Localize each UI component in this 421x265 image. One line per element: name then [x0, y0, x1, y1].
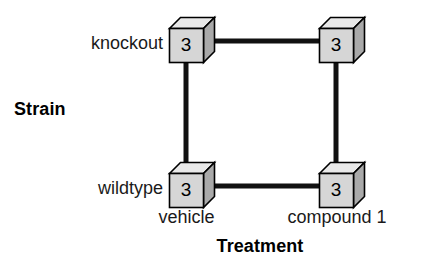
cell-wildtype-vehicle[interactable]: 3 — [169, 162, 215, 208]
cell-wildtype-compound1[interactable]: 3 — [319, 162, 365, 208]
x-axis-title: Treatment — [180, 237, 340, 255]
y-axis-title: Strain — [14, 100, 66, 118]
column-label-compound1: compound 1 — [272, 208, 402, 226]
row-label-wildtype: wildtype — [0, 179, 163, 197]
column-label-vehicle: vehicle — [134, 208, 239, 226]
factorial-design-figure: 3 3 3 3 knockout wildtype vehicle compou… — [0, 0, 421, 265]
sample-size-value: 3 — [319, 173, 353, 207]
row-label-knockout: knockout — [0, 34, 163, 52]
cell-knockout-vehicle[interactable]: 3 — [169, 17, 215, 63]
sample-size-value: 3 — [169, 173, 203, 207]
sample-size-value: 3 — [169, 28, 203, 62]
sample-size-value: 3 — [319, 28, 353, 62]
cell-knockout-compound1[interactable]: 3 — [319, 17, 365, 63]
